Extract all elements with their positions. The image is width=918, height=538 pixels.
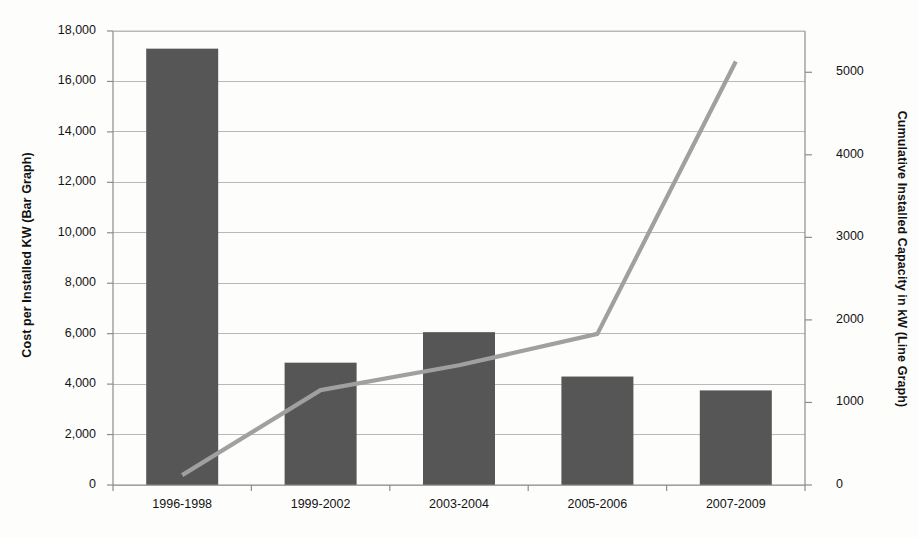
y-axis-right-tick-label: 2000 [836,313,916,326]
y-axis-right-ticks [805,31,812,485]
y-axis-left-ticks [107,31,113,485]
y-axis-left-tick-label: 4,000 [22,377,96,390]
y-axis-left-tick-label: 0 [22,478,96,491]
y-axis-left-tick-label: 12,000 [22,175,96,188]
y-axis-left-tick-label: 16,000 [22,74,96,87]
y-axis-right-tick-label: 1000 [836,395,916,408]
x-axis-category-label: 2005-2006 [528,497,666,511]
x-axis-category-label: 2007-2009 [667,497,805,511]
x-axis-category-label: 2003-2004 [390,497,528,511]
y-axis-right-tick-label: 3000 [836,230,916,243]
chart-container: Cost per Installed KW (Bar Graph) Cumula… [0,0,918,538]
y-axis-left-tick-label: 6,000 [22,327,96,340]
plot-area [0,0,918,538]
x-axis-ticks [113,485,805,491]
x-axis-category-label: 1999-2002 [251,497,389,511]
y-axis-left-tick-label: 2,000 [22,428,96,441]
x-axis-category-label: 1996-1998 [113,497,251,511]
y-axis-left-tick-label: 18,000 [22,24,96,37]
y-axis-right-tick-label: 4000 [836,148,916,161]
y-axis-right-tick-label: 0 [836,478,916,491]
y-axis-left-tick-label: 10,000 [22,226,96,239]
bar-series [146,49,772,485]
y-axis-right-tick-label: 5000 [836,65,916,78]
y-axis-left-tick-label: 8,000 [22,276,96,289]
y-axis-left-tick-label: 14,000 [22,125,96,138]
